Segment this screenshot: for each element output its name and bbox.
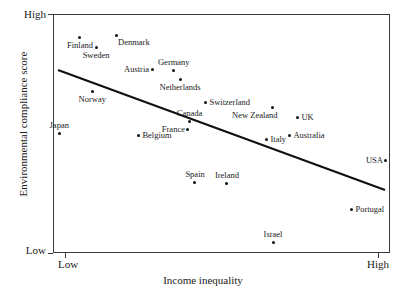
scatter-plot-figure: Environmental compliance score High Low … xyxy=(0,0,406,298)
data-point-label: Finland xyxy=(67,41,93,50)
data-point-label: Australia xyxy=(293,131,324,140)
x-tick-label-low: Low xyxy=(58,258,78,270)
data-point-label: New Zealand xyxy=(232,111,278,120)
y-tick-label-low: Low xyxy=(26,244,46,256)
data-point-label: UK xyxy=(301,113,313,122)
data-point-label: Austria xyxy=(124,65,149,74)
y-tick-label-high: High xyxy=(24,8,46,20)
data-point-label: Germany xyxy=(158,58,190,67)
data-point-label: Italy xyxy=(270,135,286,144)
y-tick-mark-low xyxy=(48,253,53,254)
data-point-label: USA xyxy=(366,156,383,165)
data-point-label: Canada xyxy=(177,109,203,118)
data-point-label: Switzerland xyxy=(209,98,250,107)
data-point-label: Israel xyxy=(264,230,283,239)
data-point-label: Belgium xyxy=(142,131,171,140)
data-point xyxy=(188,120,191,123)
data-point-label: Ireland xyxy=(215,171,239,180)
y-axis-title: Environmental compliance score xyxy=(17,29,29,219)
data-point-label: Netherlands xyxy=(160,83,201,92)
data-point-label: Denmark xyxy=(118,38,150,47)
data-point xyxy=(151,68,154,71)
x-axis-title: Income inequality xyxy=(0,274,406,286)
data-point xyxy=(58,132,61,135)
x-tick-label-high: High xyxy=(367,258,389,270)
data-point-label: Norway xyxy=(79,95,106,104)
data-point-label: Spain xyxy=(185,170,204,179)
data-point-label: Japan xyxy=(50,121,69,130)
data-point-label: Sweden xyxy=(83,51,110,60)
data-point-label: Portugal xyxy=(355,205,384,214)
